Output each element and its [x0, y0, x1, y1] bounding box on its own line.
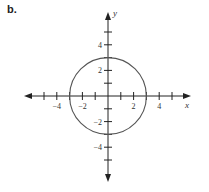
y-tick-label: 4: [98, 41, 102, 50]
x-axis-right-arrow-icon: [183, 93, 191, 99]
x-axis-label: x: [184, 100, 189, 110]
x-tick-label: −2: [78, 102, 87, 111]
x-tick-label: 4: [157, 102, 161, 111]
y-tick-label: −2: [93, 118, 102, 127]
x-tick-label: 2: [132, 102, 136, 111]
y-tick-label: −4: [93, 143, 102, 152]
y-axis-up-arrow-icon: [105, 12, 111, 20]
y-axis-label: y: [112, 8, 117, 18]
y-axis-down-arrow-icon: [105, 174, 111, 182]
x-tick-label: −4: [53, 102, 62, 111]
chart-plot: −4−22442−2−4 x y: [0, 0, 209, 192]
y-tick-label: 2: [98, 66, 102, 75]
x-axis-left-arrow-icon: [24, 93, 32, 99]
y-axis: [105, 12, 111, 182]
